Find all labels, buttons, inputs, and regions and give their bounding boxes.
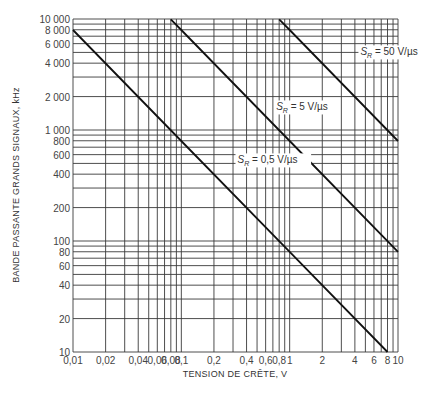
x-tick-label: 0,04 [128,355,148,366]
x-tick-label: 0,4 [240,355,254,366]
y-tick-label: 60 [59,261,71,272]
y-tick-label: 40 [59,280,71,291]
y-tick-label: 200 [53,203,70,214]
y-tick-label: 80 [59,247,71,258]
x-tick-label: 0,2 [207,355,221,366]
y-tick-label: 600 [53,150,70,161]
x-tick-label: 0,6 [259,355,273,366]
x-tick-label: 2 [319,355,325,366]
y-tick-label: 8 000 [45,25,70,36]
y-tick-label: 10 000 [39,14,70,25]
slew-rate-bandwidth-chart: 0,010,020,040,060,080,10,20,40,60,812468… [0,0,427,399]
x-tick-label: 0,1 [174,355,188,366]
x-tick-label: 10 [392,355,404,366]
y-tick-label: 4 000 [45,58,70,69]
y-axis-ticks: 10204060801002004006008001 0002 0004 000… [39,14,70,358]
x-tick-label: 0,02 [96,355,116,366]
y-tick-label: 6 000 [45,39,70,50]
y-tick-label: 1 000 [45,125,70,136]
series-line [279,19,398,141]
y-axis-label: BANDE PASSANTE GRANDS SIGNAUX, kHz [11,87,21,283]
x-axis-label: TENSION DE CRÊTE, V [183,369,288,379]
y-tick-label: 400 [53,169,70,180]
series-line [73,30,388,352]
grid-lines [73,19,398,352]
y-tick-label: 10 [59,347,71,358]
x-tick-label: 0,8 [272,355,286,366]
series-lines [73,19,398,352]
x-axis-ticks: 0,010,020,040,060,080,10,20,40,60,812468… [63,355,404,366]
y-tick-label: 800 [53,136,70,147]
y-tick-label: 2 000 [45,92,70,103]
x-tick-label: 4 [352,355,358,366]
x-tick-label: 8 [385,355,391,366]
x-tick-label: 6 [371,355,377,366]
x-tick-label: 1 [287,355,293,366]
y-tick-label: 20 [59,314,71,325]
y-tick-label: 100 [53,236,70,247]
